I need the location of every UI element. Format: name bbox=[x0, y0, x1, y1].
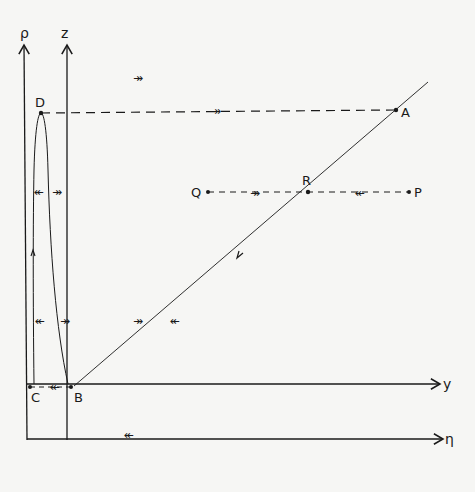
rho-axis-label: ρ bbox=[20, 25, 29, 41]
diagram-svg: ρ z y η D A ↠ Q R P ↠ ↞ ↠ bbox=[0, 0, 475, 492]
point-A bbox=[394, 108, 398, 112]
point-Q bbox=[206, 190, 210, 194]
eta-axis-label: η bbox=[445, 431, 454, 447]
z-axis-label: z bbox=[61, 25, 68, 41]
arrow-CB-icon: ↞ bbox=[50, 380, 60, 394]
arrow-diag-right-icon: ↠ bbox=[133, 314, 143, 328]
label-D: D bbox=[35, 95, 45, 110]
diagonal-trajectory bbox=[74, 82, 428, 386]
label-P: P bbox=[414, 185, 422, 200]
arrow-mid-right-icon: ↠ bbox=[60, 314, 70, 328]
arrow-QR-icon: ↠ bbox=[250, 186, 260, 200]
arrow-PR-icon: ↞ bbox=[355, 186, 365, 200]
arrow-loop-right-icon: ↠ bbox=[52, 185, 62, 199]
arrow-loop-left-icon: ↞ bbox=[34, 185, 44, 199]
arrow-mid-left-icon: ↞ bbox=[35, 314, 45, 328]
label-Q: Q bbox=[191, 185, 201, 200]
arrow-diag-left-icon: ↞ bbox=[170, 314, 180, 328]
diagonal-arrow-icon bbox=[237, 251, 243, 258]
arrow-bottom-icon: ↞ bbox=[124, 428, 134, 442]
label-B: B bbox=[74, 390, 83, 405]
point-P bbox=[407, 190, 411, 194]
rho-axis bbox=[24, 45, 27, 440]
y-axis-label: y bbox=[443, 376, 451, 392]
label-A: A bbox=[401, 105, 410, 120]
point-R bbox=[306, 190, 310, 194]
label-C: C bbox=[31, 390, 40, 405]
arrow-top-right-icon: ↠ bbox=[133, 71, 143, 85]
loop-curve bbox=[33, 113, 68, 384]
label-R: R bbox=[302, 173, 311, 188]
phase-diagram: ρ z y η D A ↠ Q R P ↠ ↞ ↠ bbox=[0, 0, 475, 492]
arrow-DA-icon: ↠ bbox=[211, 104, 221, 118]
